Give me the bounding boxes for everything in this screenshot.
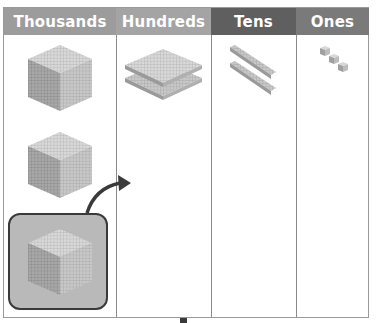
- thousand-cube-icon: [28, 229, 92, 295]
- thousand-cube-icon: [28, 132, 92, 198]
- page-marker: [180, 318, 187, 323]
- one-unit-icon: [338, 62, 348, 72]
- one-unit-icon: [320, 46, 330, 56]
- blocks-layer: [0, 0, 376, 323]
- one-unit-icon: [329, 54, 339, 64]
- thousand-cube-icon: [28, 45, 92, 111]
- regroup-arrow-icon: [87, 175, 131, 213]
